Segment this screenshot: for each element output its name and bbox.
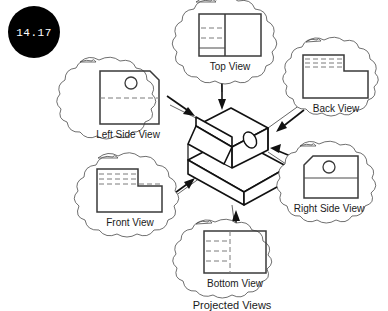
view-back[interactable]: Back View [283, 37, 379, 116]
view-label-left-side: Left Side View [96, 129, 161, 140]
isometric-object [188, 108, 288, 205]
badge-label: 14.17 [16, 27, 52, 39]
hole-circle-right [323, 161, 335, 173]
view-bottom[interactable]: Bottom View [173, 219, 272, 298]
hole-circle-left [125, 77, 137, 89]
view-top[interactable]: Top View [172, 0, 277, 84]
diagram-canvas: Top View Back View Right Side View Botto… [0, 0, 388, 311]
view-label-back: Back View [313, 103, 360, 114]
view-right-side[interactable]: Right Side View [277, 141, 376, 223]
view-left-side[interactable]: Left Side View [57, 57, 161, 140]
view-label-bottom: Bottom View [207, 278, 264, 289]
view-front[interactable]: Front View [74, 153, 179, 237]
figure-caption: Projected Views [193, 299, 272, 311]
figure-badge: 14.17 [8, 6, 60, 58]
view-label-right-side: Right Side View [294, 203, 365, 214]
view-label-top: Top View [210, 61, 251, 72]
view-label-front: Front View [106, 217, 154, 228]
